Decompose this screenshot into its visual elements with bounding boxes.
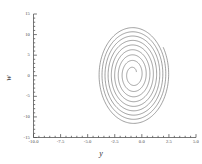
y-tick-label: 5	[14, 53, 30, 58]
y-axis-title: w	[5, 75, 13, 80]
y-axis-ticks	[34, 14, 37, 138]
x-tick-label: -2.5	[111, 140, 119, 145]
x-tick-label: -5.0	[84, 140, 92, 145]
y-tick-label: 0	[14, 73, 30, 78]
x-tick-label: 5.0	[193, 140, 199, 145]
y-tick-label: 15	[14, 12, 30, 17]
spiral-trajectory	[99, 28, 169, 124]
x-tick-label: -7.5	[57, 140, 65, 145]
y-tick-label: 10	[14, 32, 30, 37]
x-axis-title: y	[99, 150, 103, 158]
data-series-group	[99, 28, 169, 124]
x-axis-ticks	[34, 134, 197, 137]
x-tick-label: 2.5	[166, 140, 172, 145]
y-tick-label: -15	[14, 135, 30, 140]
y-tick-label: -10	[14, 115, 30, 120]
x-tick-label: -10.0	[28, 140, 38, 145]
x-tick-label: 0.0	[139, 140, 145, 145]
y-tick-label: -5	[14, 94, 30, 99]
phase-portrait-figure: -10.0-7.5-5.0-2.50.02.55.0 -15-10-505101…	[0, 0, 202, 164]
